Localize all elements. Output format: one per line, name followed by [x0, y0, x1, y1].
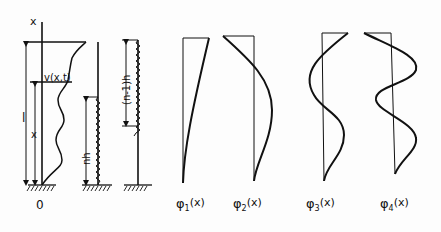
n-minus-1-h-label: (n-1)h [121, 75, 132, 105]
mode-1-label: φ1(x) [176, 196, 205, 213]
position-label: x [31, 129, 37, 140]
diagram-svg: x 0 v(x,t) l x nh (n-1)h φ1(x) φ2(x) φ3(… [0, 0, 441, 232]
cantilever-mode-shapes-diagram: x 0 v(x,t) l x nh (n-1)h φ1(x) φ2(x) φ3(… [0, 0, 441, 232]
mode-shape-4 [364, 33, 416, 174]
mode-labels: φ1(x) φ2(x) φ3(x) φ4(x) [176, 196, 409, 213]
mode-2-label: φ2(x) [233, 196, 262, 213]
mode-shape-3 [309, 33, 348, 181]
discrete-beam-n-minus-1-h [122, 40, 152, 191]
origin-label: 0 [36, 198, 44, 212]
nh-label: nh [81, 152, 92, 165]
mode-shape-1 [183, 38, 209, 183]
length-label: l [22, 111, 25, 125]
mode-shape-2 [223, 36, 272, 181]
continuous-beam [26, 22, 86, 191]
axis-label-x: x [30, 15, 37, 28]
mode-4-label: φ4(x) [380, 196, 409, 213]
discrete-beam-nh [82, 42, 112, 191]
mode-3-label: φ3(x) [306, 196, 335, 213]
deflection-label: v(x,t) [44, 72, 71, 83]
